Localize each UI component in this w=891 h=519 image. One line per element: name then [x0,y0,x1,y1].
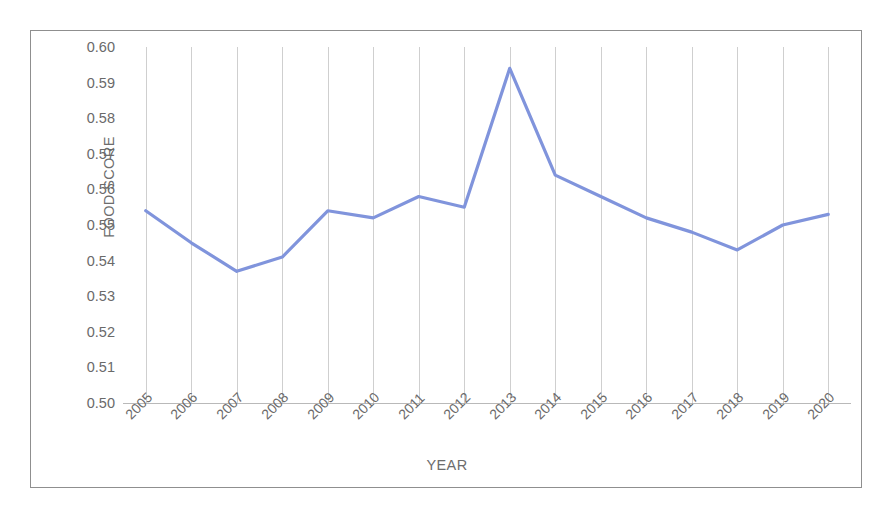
x-axis-tick-labels: 2005200620072008200920102011201220132014… [123,405,851,465]
y-axis-tick-labels: 0.600.590.580.570.560.550.540.530.520.51… [59,47,115,403]
y-tick-label: 0.56 [87,181,115,197]
x-axis-title: YEAR [31,457,863,473]
y-tick-label: 0.53 [87,288,115,304]
y-tick-label: 0.58 [87,110,115,126]
chart-plot-wrapper: FOOD SCORE 0.600.590.580.570.560.550.540… [31,31,861,487]
y-tick-label: 0.57 [87,146,115,162]
y-tick-label: 0.51 [87,359,115,375]
plot-area [123,47,851,403]
y-tick-label: 0.54 [87,253,115,269]
y-tick-label: 0.60 [87,39,115,55]
series-line [146,68,829,271]
y-tick-label: 0.50 [87,395,115,411]
chart-frame: FOOD SCORE 0.600.590.580.570.560.550.540… [30,30,862,488]
y-tick-label: 0.55 [87,217,115,233]
y-tick-label: 0.52 [87,324,115,340]
line-series-food-score [123,47,851,403]
y-tick-label: 0.59 [87,75,115,91]
